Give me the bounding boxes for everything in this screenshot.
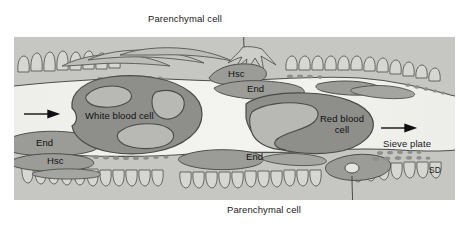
label-red-blood-cell-line2: cell: [314, 125, 370, 136]
label-end-bottom: End: [246, 152, 263, 163]
label-hsc-top: Hsc: [228, 69, 245, 80]
label-white-blood-cell: White blood cell: [85, 111, 154, 122]
label-parenchymal-cell-top: Parenchymal cell: [148, 14, 222, 25]
label-end-left: End: [36, 138, 53, 149]
label-end-top: End: [247, 84, 264, 95]
label-hsc-bottom: Hsc: [47, 156, 64, 167]
label-sieve-plate: Sieve plate: [383, 139, 431, 150]
label-sd: SD: [429, 166, 441, 176]
nucleus-oval: [345, 163, 359, 173]
label-parenchymal-cell-bottom: Parenchymal cell: [227, 205, 301, 216]
sinusoid-diagram: [0, 0, 469, 233]
figure-canvas: Parenchymal cell Parenchymal cell White …: [0, 0, 469, 233]
bottom-left-cell-strip: [32, 169, 100, 179]
